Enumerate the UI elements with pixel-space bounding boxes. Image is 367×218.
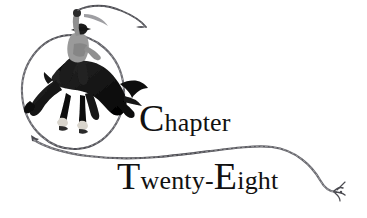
- chapter-initial-cap: C: [139, 97, 165, 139]
- chapter-number-part-one: wenty: [140, 166, 205, 195]
- chapter-number-initial-cap: T: [117, 155, 140, 197]
- chapter-remainder: hapter: [165, 108, 231, 137]
- rope-frayed-tip-icon: [334, 182, 345, 201]
- chapter-label: Chapter: [139, 99, 231, 137]
- chapter-heading-page: Chapter Twenty-Eight: [0, 0, 367, 218]
- chapter-number-part-two: ight: [237, 166, 278, 195]
- raised-rope-icon: [78, 6, 146, 28]
- chapter-number-hyphen: -: [205, 166, 214, 195]
- chapter-number-label: Twenty-Eight: [117, 157, 279, 195]
- chapter-number-second-cap: E: [214, 155, 237, 197]
